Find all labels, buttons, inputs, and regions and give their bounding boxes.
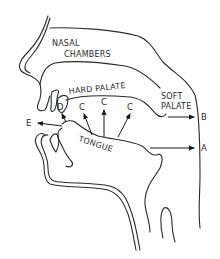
arrow-to-d [62, 114, 66, 122]
label-palate: PALATE [161, 102, 191, 111]
marker-c2: C [101, 97, 107, 107]
vocal-tract-diagram: NASAL CHAMBERS HARD PALATE SOFT PALATE T… [0, 0, 220, 259]
label-nasal: NASAL [52, 39, 80, 48]
tongue-outline [62, 121, 162, 232]
marker-b: B [201, 112, 207, 122]
head-outline [19, 16, 200, 228]
arrow-to-e [38, 123, 62, 126]
marker-a: A [201, 143, 207, 153]
label-chambers: CHAMBERS [64, 50, 111, 59]
label-soft: SOFT [161, 92, 183, 101]
arrow-to-c1 [84, 114, 92, 135]
marker-c1: C [79, 102, 85, 112]
label-hard-palate: HARD PALATE [68, 81, 126, 96]
arrow-to-c3 [118, 114, 130, 137]
marker-e: E [26, 118, 31, 128]
upper-lip [37, 84, 50, 111]
epiglottis [161, 208, 175, 242]
lower-lip [35, 128, 140, 250]
label-tongue: TONGUE [76, 134, 113, 154]
marker-d: D [57, 102, 64, 112]
marker-c3: C [127, 102, 133, 112]
